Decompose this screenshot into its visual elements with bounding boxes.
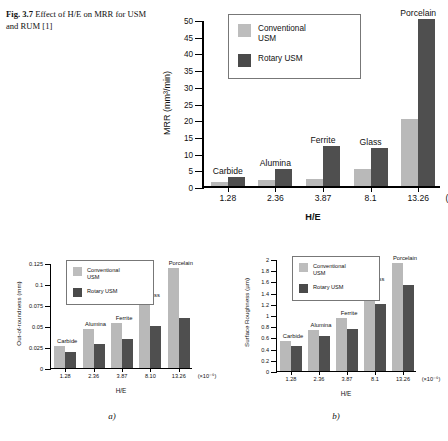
bar-conv-13.26 (392, 263, 403, 371)
bar-rot-13.26 (403, 285, 414, 371)
legend-surface-roughness: Conventional USM Rotary USM (292, 256, 380, 301)
y-axis-tick-label: 25 (184, 100, 204, 109)
series-point-label: Porcelain (169, 260, 193, 266)
y-axis-tick-label: 0 (40, 366, 51, 372)
x-axis-tick-label: 3.87 (117, 373, 128, 379)
x-axis-tick (403, 371, 404, 375)
series-point-label: Carbide (283, 333, 303, 339)
bar-rot-3.87 (323, 146, 340, 186)
legend-label-rotary: Rotary USM (87, 288, 117, 295)
x-axis-tick-label: 8.1 (365, 193, 377, 203)
x-axis-tick (375, 371, 376, 375)
bar-rot-1.28 (65, 352, 76, 368)
x-axis-tick-label: 13.26 (396, 376, 410, 382)
figure-page: Fig. 3.7 Effect of H/E on MRR for USM an… (0, 0, 448, 441)
y-axis-tick-label: 0.125 (29, 261, 51, 267)
series-point-label: Carbide (213, 166, 243, 176)
legend-swatch-rotary-icon (238, 54, 251, 67)
chart-surface-roughness: 00.20.40.60.811.21.41.61.821.28Carbide2.… (224, 228, 448, 441)
series-point-label: Alumina (260, 158, 291, 168)
legend-swatch-conventional-icon (299, 263, 308, 272)
legend-item-conventional: Conventional USM (73, 267, 120, 281)
series-point-label: Glass (360, 137, 382, 147)
y-axis-tick-label: 20 (184, 117, 204, 126)
bar-rot-3.87 (122, 339, 133, 368)
legend-item-rotary: Rotary USM (299, 284, 343, 293)
x-axis-tick (150, 368, 151, 372)
legend-swatch-conventional-icon (73, 267, 82, 276)
series-point-label: Porcelain (393, 255, 417, 261)
y-axis-tick-label: 0 (266, 369, 277, 375)
x-axis-tick (347, 371, 348, 375)
bar-rot-2.36 (319, 336, 330, 371)
y-axis-tick-label: 10 (184, 150, 204, 159)
y-axis-tick-label: 2 (266, 257, 277, 263)
x-axis-tick-label: 1.28 (286, 376, 297, 382)
legend-label-conventional: Conventional USM (87, 267, 120, 281)
y-axis-tick-label: 0.6 (261, 335, 277, 341)
bar-rot-8.1 (375, 304, 386, 371)
legend-swatch-rotary-icon (73, 288, 82, 297)
legend-swatch-conventional-icon (238, 24, 251, 37)
y-axis-label-mrr: MRR (mm³/min) (161, 19, 171, 186)
bar-conv-1.28 (280, 341, 291, 371)
x-axis-tick (291, 371, 292, 375)
x-axis-tick (319, 371, 320, 375)
y-axis-tick-label: 0.4 (261, 347, 277, 353)
bar-rot-2.36 (94, 344, 105, 368)
y-axis-tick-label: 0.2 (261, 358, 277, 364)
bar-conv-1.28 (54, 346, 65, 368)
x-axis-tick-label: 8.10 (145, 373, 156, 379)
y-axis-tick-label: 1.4 (261, 291, 277, 297)
x-axis-tick (371, 186, 372, 192)
y-axis-tick-label: 35 (184, 67, 204, 76)
chart-out-of-roundness: 00.0250.050.0750.10.1251.28Carbide2.36Al… (0, 228, 224, 441)
x-axis-tick (228, 186, 229, 192)
legend-item-conventional: Conventional USM (299, 263, 346, 277)
series-point-label: Alumina (311, 322, 332, 328)
bar-conv-3.87 (111, 323, 122, 368)
bar-rot-8.1 (371, 148, 388, 186)
y-axis-tick-label: 5 (188, 167, 204, 176)
bar-rot-13.26 (179, 318, 190, 368)
y-axis-tick-label: 1.6 (261, 279, 277, 285)
bar-conv-8.1 (354, 169, 371, 186)
x-axis-tick-label: 2.36 (267, 193, 284, 203)
x-axis-tick-label: 1.28 (219, 193, 236, 203)
y-axis-tick-label: 0.1 (35, 282, 51, 288)
bar-rot-13.26 (418, 19, 435, 186)
bar-conv-8.10 (139, 300, 150, 368)
y-axis-tick-label: 0.025 (29, 345, 51, 351)
bar-rot-1.28 (228, 177, 245, 186)
series-point-label: Alumina (85, 321, 106, 327)
y-axis-tick-label: 15 (184, 133, 204, 142)
x-axis-multiplier-label: (×10⁻⁶) (198, 373, 217, 379)
bar-rot-2.36 (275, 169, 292, 186)
x-axis-tick (122, 368, 123, 372)
y-axis-tick-label: 1 (266, 313, 277, 319)
y-axis-label-surface-roughness: Surface Roughness (µm) (243, 257, 250, 369)
y-axis-tick-label: 1.8 (261, 268, 277, 274)
legend-item-rotary: Rotary USM (238, 54, 303, 67)
bar-conv-1.28 (211, 182, 228, 186)
y-axis-tick-label: 0 (188, 184, 204, 193)
x-axis-tick-label: 1.28 (60, 373, 71, 379)
x-axis-tick (275, 186, 276, 192)
y-axis-tick-label: 30 (184, 83, 204, 92)
x-axis-tick-label: 3.87 (342, 376, 353, 382)
x-axis-label-out-of-roundness: H/E (116, 387, 127, 394)
bar-conv-3.87 (306, 179, 323, 186)
series-point-label: Carbide (57, 338, 77, 344)
legend-out-of-roundness: Conventional USM Rotary USM (66, 260, 154, 305)
bar-rot-8.10 (150, 326, 161, 368)
y-axis-tick-label: 40 (184, 50, 204, 59)
y-axis-tick-label: 0.8 (261, 324, 277, 330)
legend-label-conventional: Conventional USM (258, 24, 306, 44)
y-axis-tick-label: 45 (184, 33, 204, 42)
x-axis-tick-label: 8.1 (371, 376, 379, 382)
legend-item-conventional: Conventional USM (238, 24, 306, 44)
series-point-label: Porcelain (400, 8, 436, 18)
x-axis-tick-label: 13.26 (172, 373, 186, 379)
y-axis-tick-label: 1.2 (261, 302, 277, 308)
legend-label-rotary: Rotary USM (258, 54, 303, 64)
